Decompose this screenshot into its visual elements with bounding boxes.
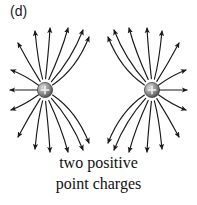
field-line [129, 101, 148, 152]
field-line [154, 31, 162, 79]
field-line [129, 28, 148, 79]
field-line [46, 101, 50, 152]
caption-line-2: point charges [0, 173, 197, 194]
field-line [35, 101, 43, 149]
field-line [154, 101, 162, 149]
field-line [53, 95, 89, 143]
left-charge-sphere [37, 82, 52, 97]
field-line [108, 95, 144, 143]
caption-line-1: two positive [0, 152, 197, 173]
field-line [53, 37, 89, 85]
field-line [51, 98, 83, 150]
field-line [114, 98, 146, 150]
field-line [46, 28, 50, 79]
field-line [49, 28, 68, 79]
field-line [147, 28, 151, 79]
field-line [35, 31, 43, 79]
field-line [108, 37, 144, 85]
right-charge-sphere [144, 82, 159, 97]
figure-caption: two positive point charges [0, 152, 197, 194]
field-line-figure: (d) [0, 0, 197, 205]
field-line [51, 30, 83, 82]
field-line [114, 30, 146, 82]
electric-field-diagram [0, 0, 197, 160]
field-line [147, 101, 151, 152]
field-line [49, 101, 68, 152]
